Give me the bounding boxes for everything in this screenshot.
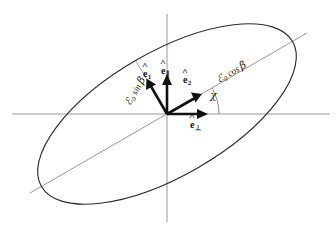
e-parallel-hat-symbol: e [161,66,165,76]
figure-canvas [0,0,336,228]
e-perp-subscript: ⊥ [195,124,201,132]
label-chi-angle: χ [210,90,217,101]
e2-hat-symbol: e [183,75,187,85]
vector-e2 [167,93,202,115]
e1-subscript: 1 [148,73,152,81]
e2-subscript: 2 [188,79,192,87]
e-perp-hat-symbol: e [190,120,194,130]
label-e2: e2 [183,75,191,87]
polarization-ellipse-figure: e1 e∥ e2 e⊥ ℰ0cosβ ℰ0sinβ χ [0,0,336,228]
label-e-parallel: e∥ [161,66,170,78]
label-e-perp: e⊥ [190,120,201,132]
e-parallel-subscript: ∥ [166,70,170,78]
